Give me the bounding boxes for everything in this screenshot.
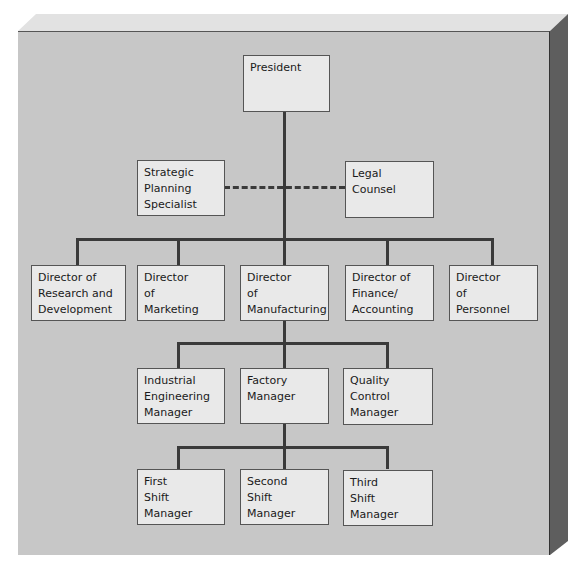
node-strategic-planning-specialist: Strategic Planning Specialist <box>137 160 225 216</box>
connector-drop-rd <box>76 238 79 265</box>
node-label: Director of <box>352 270 427 286</box>
node-label: Shift <box>144 490 218 506</box>
node-label: President <box>250 60 323 76</box>
node-label: of <box>247 286 322 302</box>
connector-factory-bar <box>177 446 389 449</box>
node-label: Legal <box>352 166 427 182</box>
connector-drop-first-shift <box>177 446 180 469</box>
node-label: Manufacturing <box>247 302 322 318</box>
connector-drop-iem <box>177 342 180 368</box>
staff-dashed-connector <box>224 186 345 189</box>
node-label: Quality <box>350 373 426 389</box>
node-label: Manager <box>350 507 426 523</box>
node-label: Manager <box>247 506 322 522</box>
node-label: Strategic <box>144 165 218 181</box>
node-director-personnel: Director of Personnel <box>449 265 538 321</box>
node-label: Research and <box>38 286 119 302</box>
node-label: Director <box>247 270 322 286</box>
node-label: Factory <box>247 373 322 389</box>
node-label: Marketing <box>144 302 218 318</box>
node-label: Shift <box>350 491 426 507</box>
node-industrial-engineering-manager: Industrial Engineering Manager <box>137 368 225 424</box>
node-second-shift-manager: Second Shift Manager <box>240 469 329 525</box>
node-label: Specialist <box>144 197 218 213</box>
node-quality-control-manager: Quality Control Manager <box>343 368 433 425</box>
connector-directors-bar <box>76 238 494 241</box>
node-first-shift-manager: First Shift Manager <box>137 469 225 525</box>
node-label: Development <box>38 302 119 318</box>
board-top-bevel <box>18 14 568 32</box>
node-factory-manager: Factory Manager <box>240 368 329 424</box>
node-label: Director of <box>38 270 119 286</box>
connector-drop-finance <box>386 238 389 265</box>
node-label: Shift <box>247 490 322 506</box>
node-label: Control <box>350 389 426 405</box>
node-label: Industrial <box>144 373 218 389</box>
node-president: President <box>243 55 330 112</box>
node-label: Second <box>247 474 322 490</box>
connector-manufacturing-bar <box>177 342 389 345</box>
node-label: Planning <box>144 181 218 197</box>
connector-drop-third-shift <box>386 446 389 469</box>
node-director-rd: Director of Research and Development <box>31 265 126 321</box>
node-label: Accounting <box>352 302 427 318</box>
node-legal-counsel: Legal Counsel <box>345 161 434 218</box>
node-label: Counsel <box>352 182 427 198</box>
connector-drop-marketing <box>177 238 180 265</box>
connector-drop-qcm <box>386 342 389 368</box>
node-label: Manager <box>144 506 218 522</box>
node-label: Engineering <box>144 389 218 405</box>
node-director-finance: Director of Finance/ Accounting <box>345 265 434 321</box>
node-label: Manager <box>350 405 426 421</box>
node-label: of <box>456 286 531 302</box>
connector-drop-personnel <box>491 238 494 265</box>
node-label: Third <box>350 475 426 491</box>
node-label: Manager <box>247 389 322 405</box>
node-director-marketing: Director of Marketing <box>137 265 225 321</box>
board-side-bevel <box>550 14 568 559</box>
node-label: Manager <box>144 405 218 421</box>
node-label: Director <box>456 270 531 286</box>
node-label: Director <box>144 270 218 286</box>
node-director-manufacturing: Director of Manufacturing <box>240 265 329 321</box>
node-label: First <box>144 474 218 490</box>
node-label: Finance/ <box>352 286 427 302</box>
node-label: Personnel <box>456 302 531 318</box>
node-third-shift-manager: Third Shift Manager <box>343 470 433 526</box>
node-label: of <box>144 286 218 302</box>
